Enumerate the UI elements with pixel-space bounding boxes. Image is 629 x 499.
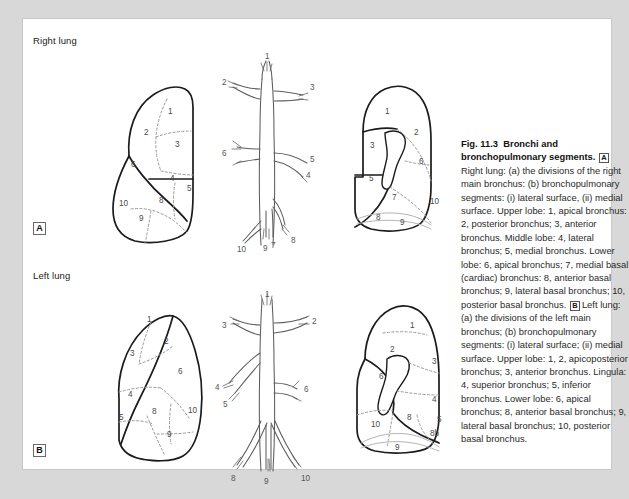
segment-number: 5 bbox=[187, 184, 192, 193]
branch-number: 5 bbox=[223, 400, 228, 409]
caption-tag-a: A bbox=[599, 153, 609, 163]
branch-number: 10 bbox=[237, 245, 247, 254]
segment-number: 6 bbox=[379, 372, 384, 381]
branch-number: 2 bbox=[222, 78, 227, 87]
right-tree-branch-numbers: 1 2 3 6 5 4 7 8 9 10 bbox=[222, 52, 315, 254]
branch-number: 8 bbox=[231, 474, 236, 483]
branch-number: 2 bbox=[312, 317, 317, 326]
segment-number: 10 bbox=[119, 199, 129, 208]
segment-number: 3 bbox=[432, 357, 437, 366]
branch-number: 1 bbox=[265, 52, 270, 61]
segment-number: 6 bbox=[419, 157, 424, 166]
branch-number: 5 bbox=[310, 155, 315, 164]
left-lung-medial-diagram: 1 2 3 6 4 10 8 5 8b 9 bbox=[343, 297, 458, 467]
segment-number: 4 bbox=[128, 390, 133, 399]
segment-number: 8 bbox=[376, 213, 381, 222]
branch-number: 7 bbox=[271, 241, 276, 250]
right-bronchial-tree-diagram: 1 2 3 6 5 4 7 8 9 10 bbox=[209, 49, 329, 254]
branch-number: 9 bbox=[263, 244, 268, 253]
segment-number: 5 bbox=[369, 174, 374, 183]
segment-number: 9 bbox=[400, 218, 405, 227]
segment-number: 7 bbox=[392, 193, 397, 202]
branch-number: 4 bbox=[306, 171, 311, 180]
segment-number: 6 bbox=[178, 367, 183, 376]
panel-tag-a: A bbox=[33, 222, 46, 235]
branch-number: 3 bbox=[222, 321, 227, 330]
branch-number: 6 bbox=[304, 385, 309, 394]
segment-number: 2 bbox=[414, 128, 419, 137]
figure-panel: Right lung A 1 2 3 6 4 5 10 8 9 bbox=[22, 18, 612, 470]
segment-number: 1 bbox=[168, 107, 173, 116]
segment-number: 1 bbox=[147, 315, 152, 324]
segment-number: 1 bbox=[385, 107, 390, 116]
segment-number: 10 bbox=[371, 420, 381, 429]
segment-number: 8 bbox=[159, 196, 164, 205]
right-lung-medial-diagram: 1 2 3 6 5 7 10 8 9 bbox=[341, 77, 451, 242]
branch-number: 8 bbox=[291, 236, 296, 245]
branch-number: 9 bbox=[264, 477, 269, 486]
figure-caption: Fig. 11.3 Bronchi and bronchopulmonary s… bbox=[461, 137, 629, 445]
segment-number: 2 bbox=[144, 128, 149, 137]
segment-number: 2 bbox=[390, 345, 395, 354]
segment-number: 10 bbox=[188, 406, 198, 415]
right-lung-label: Right lung bbox=[33, 35, 77, 46]
branch-number: 3 bbox=[310, 83, 315, 92]
caption-tag-b: B bbox=[570, 301, 580, 311]
segment-number: 4 bbox=[432, 395, 437, 404]
segment-number: 9 bbox=[139, 214, 144, 223]
segment-number: 9 bbox=[395, 443, 400, 452]
branch-number: 4 bbox=[215, 383, 220, 392]
segment-number: 3 bbox=[370, 141, 375, 150]
segment-number: 6 bbox=[131, 160, 136, 169]
segment-number: 3 bbox=[175, 140, 180, 149]
left-bronchial-tree-diagram: 1 3 2 4 5 6 8 9 10 bbox=[209, 291, 329, 486]
caption-text-a: Right lung: (a) the divisions of the rig… bbox=[461, 165, 628, 310]
segment-number: 1 bbox=[410, 321, 415, 330]
branch-number: 6 bbox=[222, 149, 227, 158]
segment-number: 2 bbox=[164, 337, 169, 346]
left-lung-label: Left lung bbox=[33, 270, 70, 281]
figure-number: Fig. 11.3 bbox=[461, 138, 498, 149]
branch-number: 1 bbox=[265, 290, 270, 299]
panel-tag-b: B bbox=[33, 444, 46, 457]
segment-number: 10 bbox=[430, 197, 440, 206]
segment-number: 5 bbox=[119, 413, 124, 422]
segment-number: 9 bbox=[167, 430, 172, 439]
segment-number: 8 bbox=[152, 407, 157, 416]
segment-number: 4 bbox=[170, 174, 175, 183]
segment-number: 5 bbox=[437, 415, 442, 424]
caption-text-b: Left lung: (a) the divisions of the left… bbox=[461, 299, 628, 444]
segment-number: 8 bbox=[407, 413, 412, 422]
segment-number: 3 bbox=[130, 349, 135, 358]
branch-number: 10 bbox=[301, 474, 311, 483]
segment-number: 8b bbox=[430, 429, 440, 438]
